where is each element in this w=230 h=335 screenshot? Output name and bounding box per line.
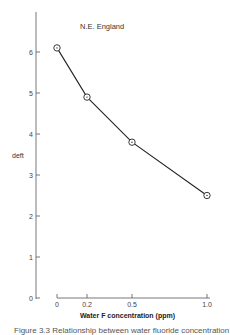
x-tick-label: 1.0: [202, 301, 212, 308]
data-point-dot: [131, 142, 132, 143]
x-tick-label: 0.5: [127, 301, 137, 308]
y-tick-label: 5: [29, 90, 33, 97]
y-tick-label: 6: [29, 49, 33, 56]
y-tick-label: 2: [29, 213, 33, 220]
data-point-dot: [206, 195, 207, 196]
x-tick-label: 0.2: [82, 301, 92, 308]
data-point-dot: [86, 96, 87, 97]
chart-title: N.E. England: [80, 22, 124, 31]
data-point-dot: [56, 47, 57, 48]
y-axis-label: deft: [12, 152, 24, 159]
y-tick-label: 3: [29, 172, 33, 179]
x-axis-label: Water F concentration (ppm): [80, 312, 175, 319]
x-tick-label: 0: [55, 301, 59, 308]
series-line: [57, 48, 207, 196]
y-tick-label: 0: [29, 295, 33, 302]
y-tick-label: 1: [29, 254, 33, 261]
y-tick-label: 4: [29, 131, 33, 138]
figure-caption: Figure 3.3 Relationship between water fl…: [14, 326, 229, 335]
